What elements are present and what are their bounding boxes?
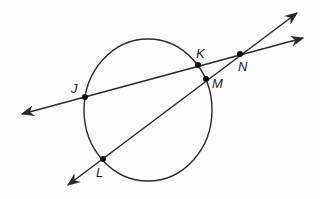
point-j — [82, 94, 88, 100]
labels-layer: JKNML — [70, 46, 248, 180]
points-layer — [82, 51, 243, 162]
geometry-diagram: JKNML — [0, 0, 320, 199]
point-label-j: J — [70, 81, 78, 96]
point-label-l: L — [96, 165, 103, 180]
point-label-n: N — [238, 59, 248, 74]
point-l — [100, 156, 106, 162]
diagram-canvas: JKNML — [0, 0, 320, 199]
point-label-k: K — [196, 46, 206, 61]
point-label-m: M — [212, 76, 223, 91]
point-n — [237, 51, 243, 57]
point-m — [203, 76, 209, 82]
line-jkn — [22, 38, 303, 114]
point-k — [195, 62, 201, 68]
